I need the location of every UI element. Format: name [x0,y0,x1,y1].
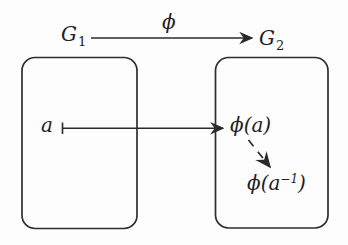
group-G1-symbol: G [61,22,77,46]
phi-map-label: ϕ [162,11,176,33]
homomorphism-diagram: G1 ϕ G2 a ϕ(a) ϕ(a−1) [0,0,348,245]
element-a-label: a [41,114,53,136]
group-G2-subscript: 2 [276,38,284,53]
group-G2-symbol: G [259,26,275,50]
phi-a-inverse-post: ) [298,171,306,195]
inverse-dashed-arrow [249,140,271,167]
group-G1-box [22,58,137,229]
phi-a-inverse-pre: ϕ(a [247,171,280,195]
group-G1-subscript: 1 [78,34,86,49]
group-G2-label: G2 [259,27,283,49]
phi-a-inverse-exponent: −1 [280,172,298,186]
image-phi-a-inverse-label: ϕ(a−1) [247,172,306,194]
group-G1-label: G1 [61,23,85,45]
image-phi-a-label: ϕ(a) [230,114,271,136]
group-G2-box [216,58,329,229]
